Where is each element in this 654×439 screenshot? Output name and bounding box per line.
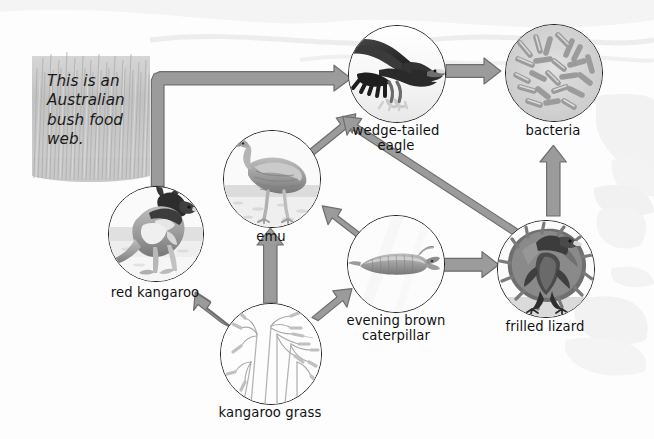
label-bacteria: bacteria: [503, 124, 603, 139]
arrow-caterpillar-to-lizard: [444, 252, 499, 278]
arrow-lizard-to-bacteria: [540, 145, 566, 216]
food-web-diagram: This is an Australian bush food web.: [0, 0, 654, 439]
label-emu: emu: [221, 230, 321, 245]
bacteria-illustration: [505, 24, 603, 122]
label-evening-brown-caterpillar: evening brown caterpillar: [335, 314, 457, 344]
kangaroo-grass-illustration: [220, 303, 322, 405]
red-kangaroo-illustration: [108, 186, 204, 282]
eagle-illustration: [348, 25, 446, 123]
label-red-kangaroo: red kangaroo: [105, 286, 205, 301]
label-frilled-lizard: frilled lizard: [495, 320, 595, 335]
frilled-lizard-illustration: [497, 220, 595, 318]
emu-illustration: [223, 130, 321, 228]
arrow-eagle-to-bacteria: [446, 58, 501, 84]
label-kangaroo-grass: kangaroo grass: [212, 406, 328, 421]
label-wedge-tailed-eagle: wedge-tailed eagle: [336, 124, 456, 154]
caterpillar-illustration: [347, 215, 445, 313]
